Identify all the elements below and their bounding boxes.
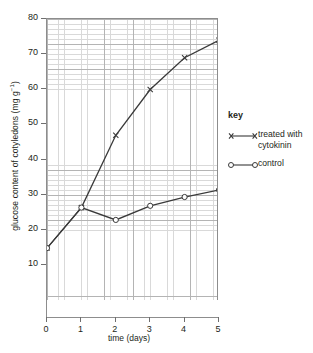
x-tick-mark (80, 317, 81, 322)
legend-item-treated: treated with cytokinin (228, 129, 313, 150)
y-tick-mark (41, 229, 46, 230)
y-tick-label: 60 (18, 82, 38, 92)
y-tick-mark (41, 264, 46, 265)
y-tick-mark (41, 88, 46, 89)
legend-title: key (228, 110, 313, 120)
data-point-marker (148, 87, 153, 92)
plot-area (46, 18, 218, 300)
data-point-marker (79, 205, 84, 210)
data-point-marker (148, 203, 153, 208)
y-tick-label: 20 (18, 223, 38, 233)
x-tick-mark (149, 317, 150, 322)
x-tick-mark (46, 317, 47, 322)
y-tick-label: 10 (18, 258, 38, 268)
data-point-marker (182, 194, 187, 199)
cross-marker-icon (228, 130, 258, 142)
x-axis-line (46, 317, 219, 318)
legend: key treated with cytokinin control (228, 110, 313, 179)
x-tick-mark (115, 317, 116, 322)
y-tick-mark (41, 53, 46, 54)
y-tick-label: 80 (18, 12, 38, 22)
data-point-marker (113, 217, 118, 222)
data-point-marker (113, 133, 118, 138)
series-open-circle (47, 187, 218, 250)
y-axis-title-superscript: −1 (8, 84, 15, 91)
data-point-marker (47, 246, 50, 251)
x-tick-mark (218, 317, 219, 322)
y-tick-mark (41, 123, 46, 124)
open-circle-marker-icon (228, 159, 258, 171)
series-line (47, 190, 218, 248)
y-tick-mark (41, 194, 46, 195)
data-point-marker (216, 38, 218, 43)
y-tick-label: 70 (18, 47, 38, 57)
y-tick-label: 50 (18, 117, 38, 127)
data-series-layer (47, 19, 218, 300)
chart-figure: glucose content of cotyledons (mg g−1) 1… (0, 0, 313, 353)
y-tick-mark (41, 159, 46, 160)
y-tick-label: 30 (18, 188, 38, 198)
y-tick-label: 40 (18, 153, 38, 163)
data-point-marker (182, 55, 187, 60)
legend-item-control: control (228, 158, 313, 171)
y-tick-mark (41, 18, 46, 19)
y-axis-line (46, 18, 47, 318)
legend-label-treated: treated with cytokinin (258, 129, 313, 150)
legend-label-control: control (258, 158, 284, 169)
data-point-marker (216, 187, 218, 192)
x-tick-mark (184, 317, 185, 322)
x-axis-title: time (days) (38, 333, 220, 343)
